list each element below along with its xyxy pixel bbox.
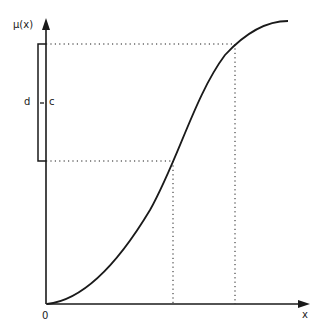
x-axis-label: x: [302, 309, 308, 320]
bracket-label-d: d: [24, 96, 30, 107]
membership-function-diagram: μ(x) x 0 d c: [0, 0, 324, 331]
x-axis-arrow-icon: [298, 300, 310, 308]
diagram-canvas: [0, 0, 324, 331]
bracket-label-c: c: [49, 96, 55, 107]
origin-label: 0: [42, 310, 48, 321]
sigmoid-curve: [47, 21, 288, 304]
y-axis-label: μ(x): [13, 19, 33, 30]
y-axis-arrow-icon: [42, 18, 50, 30]
